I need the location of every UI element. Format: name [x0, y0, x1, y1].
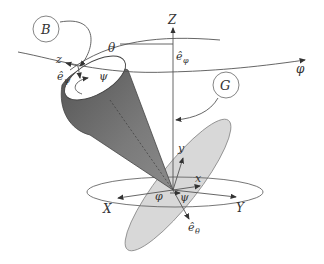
svg-text:ê: ê — [188, 221, 195, 234]
label-z-body: z — [55, 53, 62, 66]
label-x-axis: X — [102, 202, 112, 216]
label-e-theta: ê θ — [188, 221, 200, 236]
svg-text:ê: ê — [57, 70, 64, 83]
label-e-psi: ê ψ — [57, 70, 71, 85]
label-theta: θ — [108, 41, 116, 55]
label-y-axis: Y — [236, 201, 245, 215]
label-g: G — [220, 78, 230, 93]
svg-text:φ: φ — [183, 56, 189, 65]
label-x-body: x — [195, 172, 202, 185]
svg-text:θ: θ — [195, 227, 200, 236]
label-phi-bottom: φ — [155, 190, 163, 203]
label-z-axis: Z — [167, 13, 177, 27]
label-b: B — [40, 22, 51, 37]
label-y-body: y — [177, 142, 185, 155]
label-psi-bottom: ψ — [180, 191, 189, 204]
euler-angle-diagram: B G Z X Y z x y θ φ φ ψ ψ ê φ ê ψ ê θ — [0, 0, 324, 264]
label-phi-top: φ — [296, 62, 305, 76]
svg-text:ψ: ψ — [64, 76, 71, 85]
svg-text:ê: ê — [176, 50, 183, 63]
label-psi-top: ψ — [99, 70, 108, 83]
g-callout-line — [176, 98, 218, 120]
cone — [58, 47, 173, 190]
label-e-phi: ê φ — [176, 50, 189, 65]
